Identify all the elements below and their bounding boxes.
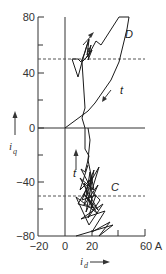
x-tick-label-0: 0 — [62, 240, 68, 252]
y-tick-label-neg40: −40 — [16, 176, 35, 188]
svg-text:i: i — [80, 255, 83, 267]
y-tick-label-80: 80 — [23, 11, 35, 23]
chart-canvas: 80 40 0 −40 −80 −20 0 20 60 A i q i d — [0, 0, 166, 274]
y-ticks — [38, 17, 44, 209]
svg-text:q: q — [13, 147, 17, 156]
x-tick-label-20: 20 — [86, 240, 98, 252]
label-D: D — [125, 28, 133, 40]
trajectory-line — [65, 17, 129, 236]
y-tick-label-0: 0 — [29, 122, 35, 134]
svg-text:i: i — [9, 140, 12, 152]
y-axis-title: i q — [9, 111, 18, 156]
x-axis-title: i d — [80, 255, 110, 270]
label-C: C — [111, 181, 119, 193]
x-tick-label-neg20: −20 — [30, 240, 49, 252]
x-tick-label-60: 60 A — [140, 240, 163, 252]
y-tick-label-40: 40 — [23, 67, 35, 79]
svg-text:d: d — [84, 261, 89, 270]
label-t-upper: t — [120, 84, 124, 96]
